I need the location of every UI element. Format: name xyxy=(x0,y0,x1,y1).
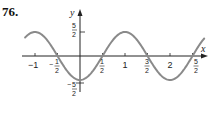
svg-text:1: 1 xyxy=(55,58,59,65)
x-tick-label-neg1: −1 xyxy=(28,60,38,70)
svg-text:−: − xyxy=(67,81,71,88)
svg-text:5: 5 xyxy=(194,58,198,65)
svg-text:2: 2 xyxy=(194,67,198,74)
svg-text:1: 1 xyxy=(100,58,104,65)
x-axis-label: x xyxy=(200,43,206,54)
svg-text:5: 5 xyxy=(72,22,76,29)
x-tick-label-1: 1 xyxy=(123,60,128,70)
x-tick-label-5-2: 5 2 xyxy=(194,58,199,74)
x-tick-label-2: 2 xyxy=(168,60,173,70)
svg-text:5: 5 xyxy=(72,81,76,88)
svg-text:2: 2 xyxy=(55,67,59,74)
svg-text:2: 2 xyxy=(72,90,76,97)
graph: y x 5 2 − 5 2 −1 − 1 2 1 2 1 3 2 2 5 2 xyxy=(0,0,210,119)
y-axis-arrow-icon xyxy=(78,9,83,16)
x-tick-label-neg-1-2: − 1 2 xyxy=(49,58,60,74)
svg-text:−: − xyxy=(49,61,53,68)
y-axis-label: y xyxy=(69,7,75,18)
y-tick-label-5-2: 5 2 xyxy=(72,22,77,38)
svg-text:2: 2 xyxy=(72,31,76,38)
svg-text:3: 3 xyxy=(145,58,149,65)
x-axis-arrow-icon xyxy=(201,54,208,59)
x-tick-label-3-2: 3 2 xyxy=(145,58,150,74)
x-tick-label-1-2: 1 2 xyxy=(100,58,105,74)
svg-text:2: 2 xyxy=(100,67,104,74)
svg-text:2: 2 xyxy=(145,67,149,74)
y-tick-label-neg-5-2: − 5 2 xyxy=(67,81,77,97)
